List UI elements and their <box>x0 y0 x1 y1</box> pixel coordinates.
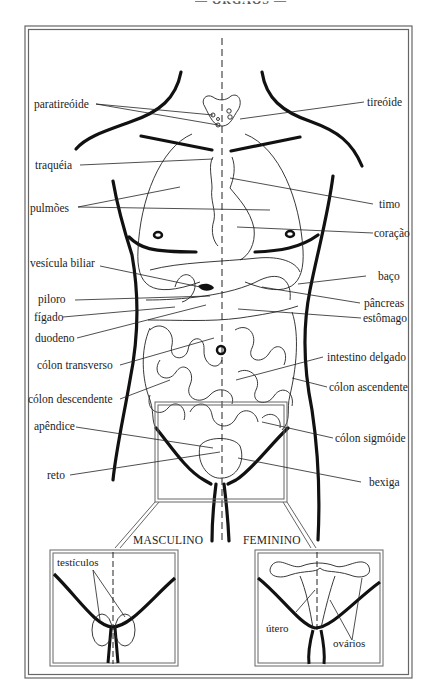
body-outline <box>76 72 362 541</box>
leader-lines <box>63 102 373 482</box>
label-ovarios: ovários <box>333 637 365 649</box>
label-tireoide: tireóide <box>367 96 402 108</box>
label-estomago: estômago <box>363 312 407 324</box>
label-colon-ascendente: cólon ascendente <box>329 381 408 393</box>
label-piloro: piloro <box>38 293 65 305</box>
gall-bladder <box>198 284 214 291</box>
label-reto: reto <box>47 469 65 481</box>
label-bexiga: bexiga <box>369 476 400 488</box>
label-timo: timo <box>379 198 400 210</box>
label-coracao: coração <box>374 227 410 239</box>
label-baco: baço <box>378 270 400 282</box>
label-figado: fígado <box>34 311 63 323</box>
label-apendice: apêndice <box>34 420 75 432</box>
label-colon-sigmoide: cólon sigmóide <box>335 432 406 444</box>
organs <box>138 95 303 478</box>
label-paratireoide: paratireóide <box>34 98 89 110</box>
female-inset-title: FEMININO <box>243 534 301 546</box>
label-pancreas: pâncreas <box>364 297 404 309</box>
label-pulmoes: pulmões <box>30 202 69 214</box>
label-duodeno: duodeno <box>35 332 75 344</box>
label-colon-transverso: cólon transverso <box>37 359 113 371</box>
label-vesicula-biliar: vesícula biliar <box>30 257 95 269</box>
label-intestino-delgado: intestino delgado <box>327 351 406 363</box>
label-traqueia: traquéia <box>35 159 72 171</box>
male-inset-title: MASCULINO <box>133 534 203 546</box>
label-colon-descendente: cólon descendente <box>28 393 113 405</box>
label-utero: útero <box>266 622 289 634</box>
label-testiculos: testículos <box>57 556 99 568</box>
